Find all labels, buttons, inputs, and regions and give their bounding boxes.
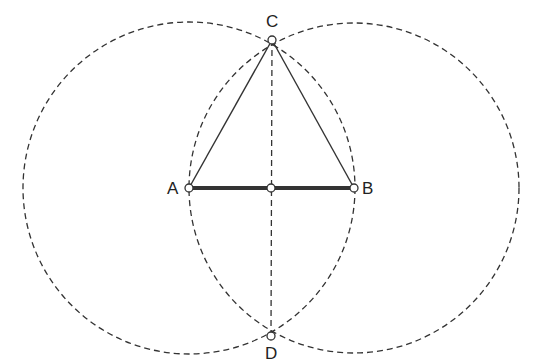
point-a [185, 184, 193, 192]
segment-ac [189, 40, 272, 188]
midpoint-ab [267, 184, 275, 192]
label-b: B [362, 179, 373, 198]
label-c: C [266, 12, 278, 31]
construction-diagram: A B C D [0, 0, 534, 363]
point-d [267, 332, 275, 340]
segment-bc [272, 40, 354, 188]
label-d: D [265, 344, 277, 363]
point-b [350, 184, 358, 192]
point-c [268, 36, 276, 44]
label-a: A [167, 179, 179, 198]
